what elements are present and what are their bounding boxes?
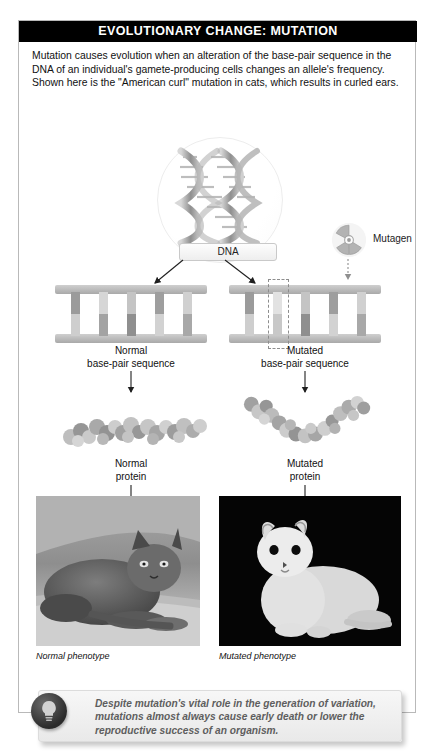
- base-pair-rung: [71, 292, 80, 336]
- base-pair-rung: [329, 292, 338, 336]
- mutated-sequence-to-protein-arrow: [299, 371, 311, 397]
- mutated-sequence-label: Mutated base-pair sequence: [220, 345, 390, 370]
- dna-label-text: DNA: [180, 244, 276, 259]
- page-title: EVOLUTIONARY CHANGE: MUTATION: [19, 21, 417, 42]
- key-insight-callout: Despite mutation's vital role in the gen…: [38, 690, 402, 742]
- card-header-bar: EVOLUTIONARY CHANGE: MUTATION: [19, 21, 417, 42]
- normal-base-pair-ladder: [55, 285, 207, 343]
- base-pair-rung: [99, 292, 108, 336]
- mutagen-label: Mutagen: [373, 233, 412, 244]
- dna-double-helix-icon: [167, 143, 271, 247]
- info-card: EVOLUTIONARY CHANGE: MUTATION Mutation c…: [18, 20, 416, 713]
- mutated-protein-molecule: [233, 395, 383, 447]
- mutated-phenotype-photo: [219, 496, 401, 646]
- lightbulb-icon: [31, 693, 67, 729]
- base-pair-rung: [127, 292, 136, 336]
- mutagen-arrow: [341, 259, 355, 283]
- key-insight-text: Despite mutation's vital role in the gen…: [95, 697, 391, 737]
- normal-phenotype-caption: Normal phenotype: [36, 651, 110, 661]
- normal-protein-label: Normal protein: [46, 458, 216, 483]
- base-pair-rung: [183, 292, 192, 336]
- base-pair-rung: [155, 292, 164, 336]
- dna-split-arrows: [79, 259, 329, 287]
- base-pair-rung: [357, 292, 366, 336]
- mutation-highlight-box: [268, 279, 289, 349]
- normal-sequence-label: Normal base-pair sequence: [46, 345, 216, 370]
- normal-sequence-to-protein-arrow: [125, 371, 137, 397]
- mutated-phenotype-caption: Mutated phenotype: [219, 651, 296, 661]
- normal-phenotype-photo: [36, 496, 200, 646]
- mutated-base-pair-ladder: [229, 285, 381, 343]
- intro-paragraph: Mutation causes evolution when an altera…: [32, 49, 404, 90]
- mutated-protein-label: Mutated protein: [220, 458, 390, 483]
- radiation-trefoil-icon: [330, 221, 368, 259]
- normal-protein-molecule: [59, 399, 209, 451]
- base-pair-rung: [301, 292, 310, 336]
- base-pair-rung: [245, 292, 254, 336]
